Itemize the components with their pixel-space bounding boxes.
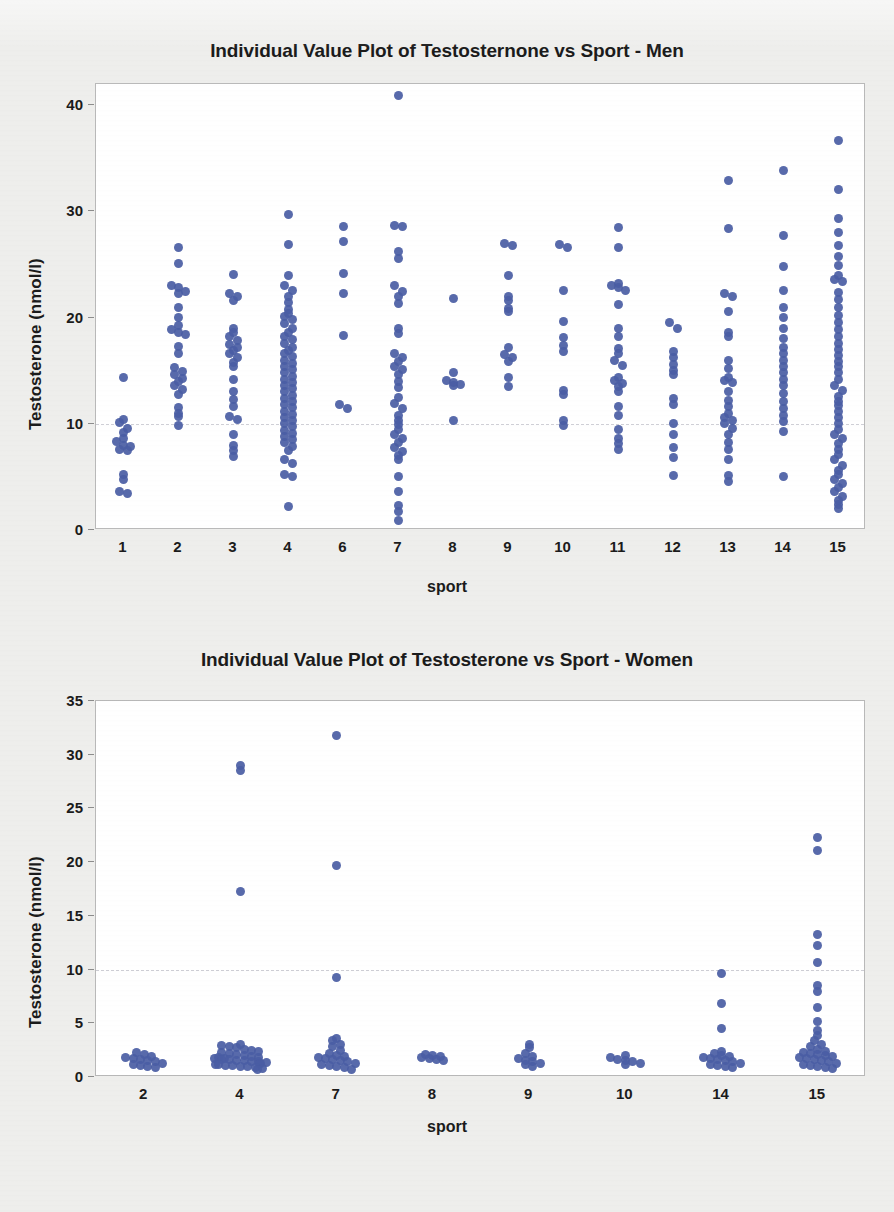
data-point (339, 269, 348, 278)
y-axis-title-men: Testosterone (nmol/l) (26, 258, 46, 430)
data-point (834, 136, 843, 145)
data-point (621, 1060, 630, 1069)
data-point (779, 262, 788, 271)
data-point (174, 243, 183, 252)
y-tick-label: 35 (49, 692, 83, 709)
data-point (559, 286, 568, 295)
data-point (614, 223, 623, 232)
data-point (834, 241, 843, 250)
data-point (813, 958, 822, 967)
data-point (779, 427, 788, 436)
data-point (724, 455, 733, 464)
y-tick-mark (88, 317, 94, 318)
data-point (724, 307, 733, 316)
y-tick-label: 15 (49, 906, 83, 923)
data-point (339, 237, 348, 246)
data-point (728, 1063, 737, 1072)
data-point (813, 846, 822, 855)
data-point (728, 292, 737, 301)
data-point (834, 261, 843, 270)
x-tick-label-1: 1 (118, 538, 126, 555)
gridline-10 (96, 424, 864, 425)
data-point (779, 313, 788, 322)
data-point (504, 271, 513, 280)
y-tick-mark (88, 915, 94, 916)
data-point (673, 324, 682, 333)
data-point (394, 487, 403, 496)
data-point (669, 370, 678, 379)
data-point (504, 382, 513, 391)
y-tick-label: 40 (49, 96, 83, 113)
data-point (288, 315, 297, 324)
x-tick-label-8: 8 (428, 1085, 436, 1102)
data-point (449, 381, 458, 390)
data-point (508, 241, 517, 250)
data-point (779, 472, 788, 481)
data-point (394, 329, 403, 338)
data-point (343, 404, 352, 413)
data-point (119, 373, 128, 382)
gridline-10 (96, 970, 864, 971)
data-point (779, 417, 788, 426)
data-point (636, 1059, 645, 1068)
y-tick-label: 0 (49, 1068, 83, 1085)
data-point (779, 231, 788, 240)
y-tick-mark (88, 861, 94, 862)
data-point (229, 430, 238, 439)
y-tick-mark (88, 210, 94, 211)
y-tick-label: 30 (49, 745, 83, 762)
y-tick-mark (88, 969, 94, 970)
x-tick-label-8: 8 (448, 538, 456, 555)
data-point (614, 425, 623, 434)
data-point (669, 419, 678, 428)
x-tick-label-10: 10 (554, 538, 571, 555)
data-point (813, 987, 822, 996)
y-tick-label: 5 (49, 1014, 83, 1031)
data-point (614, 411, 623, 420)
data-point (614, 243, 623, 252)
data-point (724, 477, 733, 486)
x-tick-label-7: 7 (393, 538, 401, 555)
data-point (174, 390, 183, 399)
x-tick-label-9: 9 (524, 1085, 532, 1102)
data-point (834, 504, 843, 513)
chart-title-women: Individual Value Plot of Testosterone vs… (0, 649, 894, 671)
data-point (717, 969, 726, 978)
data-point (174, 303, 183, 312)
data-point (563, 243, 572, 252)
data-point (724, 364, 733, 373)
data-point (236, 766, 245, 775)
data-point (332, 973, 341, 982)
x-tick-label-11: 11 (610, 538, 626, 555)
data-point (779, 334, 788, 343)
y-tick-label: 25 (49, 799, 83, 816)
data-point (724, 176, 733, 185)
data-point (779, 166, 788, 175)
x-tick-label-14: 14 (712, 1085, 729, 1102)
x-tick-label-2: 2 (173, 538, 181, 555)
data-point (284, 502, 293, 511)
data-point (614, 402, 623, 411)
data-point (394, 472, 403, 481)
data-point (504, 357, 513, 366)
data-point (559, 421, 568, 430)
data-point (813, 930, 822, 939)
x-tick-label-2: 2 (139, 1085, 147, 1102)
data-point (229, 402, 238, 411)
data-point (813, 1017, 822, 1026)
data-point (504, 373, 513, 382)
y-tick-label: 20 (49, 308, 83, 325)
x-tick-label-15: 15 (829, 538, 846, 555)
data-point (834, 228, 843, 237)
data-point (614, 445, 623, 454)
data-point (288, 459, 297, 468)
data-point (813, 833, 822, 842)
y-tick-mark (88, 700, 94, 701)
x-tick-label-12: 12 (664, 538, 681, 555)
data-point (834, 252, 843, 261)
y-tick-label: 10 (49, 414, 83, 431)
data-point (559, 390, 568, 399)
data-point (229, 270, 238, 279)
data-point (253, 1065, 262, 1074)
data-point (618, 361, 627, 370)
